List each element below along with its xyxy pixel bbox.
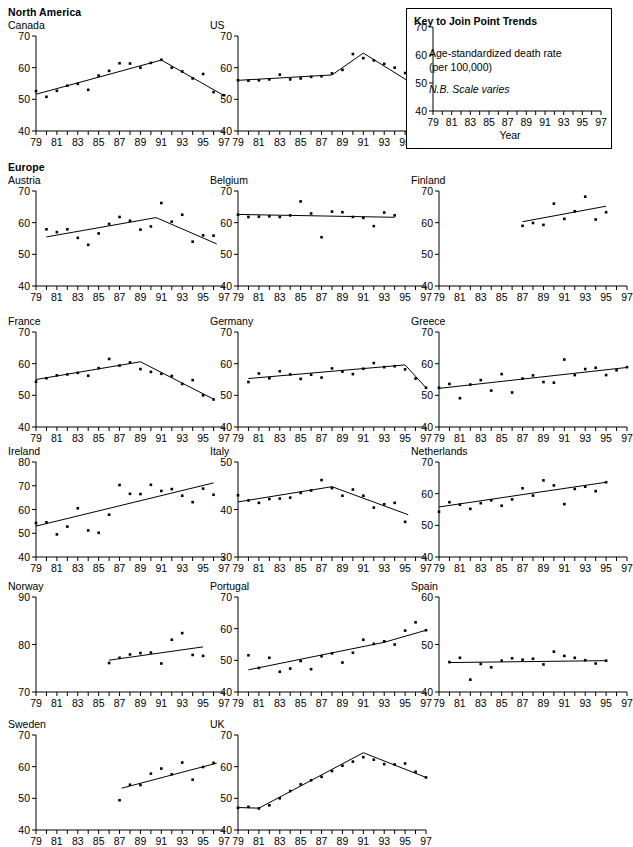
- data-point: [108, 70, 111, 73]
- x-tick-label: 95: [600, 562, 612, 574]
- chart-title: Ireland: [8, 445, 40, 457]
- y-tick-label: 50: [421, 389, 433, 401]
- x-tick-label: 89: [135, 432, 147, 444]
- data-point: [448, 383, 451, 386]
- plot-area: 4050607079818385878991939597: [210, 187, 432, 308]
- x-tick-label: 79: [433, 432, 445, 444]
- data-point: [202, 766, 205, 769]
- x-tick-label: 91: [357, 697, 369, 709]
- data-point: [202, 487, 205, 490]
- data-point: [139, 493, 142, 496]
- x-tick-label: 95: [197, 562, 209, 574]
- joinpoint-trend-line: [439, 367, 627, 388]
- x-tick-label: 91: [155, 291, 167, 303]
- data-point: [202, 655, 205, 658]
- x-tick-label: 97: [621, 697, 633, 709]
- data-point: [139, 784, 142, 787]
- data-point: [129, 62, 132, 65]
- data-point: [160, 490, 163, 493]
- x-tick-label: 89: [135, 697, 147, 709]
- x-tick-label: 85: [93, 291, 105, 303]
- x-tick-label: 95: [197, 291, 209, 303]
- data-point: [573, 374, 576, 377]
- x-tick-label: 91: [155, 835, 167, 847]
- x-tick-label: 79: [232, 432, 244, 444]
- data-point: [139, 652, 142, 655]
- x-tick-label: 95: [399, 432, 411, 444]
- data-point: [352, 53, 355, 56]
- x-tick-label: 93: [378, 136, 390, 148]
- y-tick-label: 40: [421, 551, 433, 563]
- x-tick-label: 87: [114, 835, 126, 847]
- x-tick-label: 89: [135, 136, 147, 148]
- data-point: [237, 213, 240, 216]
- data-point: [76, 237, 79, 240]
- data-point: [289, 373, 292, 376]
- data-point: [258, 372, 261, 375]
- x-tick-label: 93: [378, 291, 390, 303]
- data-point: [553, 484, 556, 487]
- x-tick-label: 89: [337, 697, 349, 709]
- y-tick-label: 50: [421, 248, 433, 260]
- x-tick-label: 79: [232, 697, 244, 709]
- data-point: [404, 368, 407, 371]
- y-tick-label: 80: [18, 458, 30, 468]
- data-point: [511, 657, 514, 660]
- x-tick-label: 93: [176, 697, 188, 709]
- x-tick-label: 87: [114, 697, 126, 709]
- y-tick-label: 70: [18, 187, 30, 197]
- data-point: [521, 225, 524, 228]
- plot-area: 4050607079818385878991939597: [411, 328, 633, 449]
- x-tick-label: 89: [337, 562, 349, 574]
- x-tick-label: 91: [558, 562, 570, 574]
- y-tick-label: 70: [18, 32, 30, 42]
- plot-area: 30405079818385878991939597: [210, 458, 432, 579]
- y-tick-label: 40: [220, 824, 232, 836]
- x-tick-label: 83: [475, 291, 487, 303]
- data-point: [299, 200, 302, 203]
- data-point: [191, 654, 194, 657]
- y-tick-label: 40: [220, 421, 232, 433]
- data-point: [542, 381, 545, 384]
- x-tick-label: 83: [274, 697, 286, 709]
- chart-title: Germany: [210, 315, 253, 327]
- data-point: [383, 503, 386, 506]
- data-point: [393, 365, 396, 368]
- data-point: [87, 89, 90, 92]
- data-point: [191, 379, 194, 382]
- x-tick-label: 95: [197, 432, 209, 444]
- data-point: [372, 225, 375, 228]
- data-point: [352, 651, 355, 654]
- data-point: [383, 640, 386, 643]
- x-tick-label: 89: [135, 562, 147, 574]
- plot-area: 4050607079818385878991939597: [8, 731, 230, 847]
- data-point: [372, 758, 375, 761]
- data-point: [521, 487, 524, 490]
- y-tick-label: 40: [18, 421, 30, 433]
- x-tick-label: 93: [176, 136, 188, 148]
- x-tick-label: 85: [295, 562, 307, 574]
- x-tick-label: 87: [316, 291, 328, 303]
- x-tick-label: 93: [579, 697, 591, 709]
- x-tick-label: 81: [454, 697, 466, 709]
- data-point: [362, 367, 365, 370]
- y-tick-label: 40: [220, 504, 232, 516]
- data-point: [372, 506, 375, 509]
- x-tick-label: 81: [454, 562, 466, 574]
- data-point: [202, 234, 205, 237]
- data-point: [160, 767, 163, 770]
- x-tick-label: 81: [253, 291, 265, 303]
- x-tick-label: 79: [30, 835, 42, 847]
- data-point: [289, 78, 292, 81]
- x-tick-label: 89: [337, 432, 349, 444]
- y-tick-label: 40: [421, 686, 433, 698]
- data-point: [448, 501, 451, 504]
- data-point: [237, 494, 240, 497]
- y-tick-label: 60: [220, 623, 232, 635]
- x-tick-label: 89: [135, 835, 147, 847]
- x-tick-label: 81: [51, 136, 63, 148]
- y-tick-label: 50: [220, 248, 232, 260]
- data-point: [479, 663, 482, 666]
- y-tick-label: 40: [18, 125, 30, 137]
- x-tick-label: 79: [433, 291, 445, 303]
